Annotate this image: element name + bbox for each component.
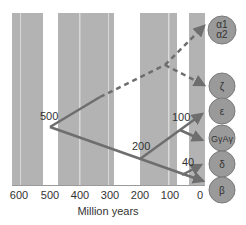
tick-400: 400	[71, 189, 89, 201]
gene-alpha-label-2: α2	[216, 29, 228, 40]
tick-0: 0	[197, 189, 203, 201]
node-label-500: 500	[40, 110, 58, 122]
tick-100: 100	[161, 189, 179, 201]
gene-delta: δ	[209, 151, 235, 177]
white-stripe	[43, 13, 58, 186]
gene-delta-label: δ	[219, 159, 225, 170]
gene-beta: β	[209, 177, 235, 203]
gene-alpha: α1 α2	[208, 16, 236, 44]
gene-zeta-label: ζ	[220, 81, 225, 93]
time-axis: 600 500 400 300 200 100 0 Million years	[10, 189, 203, 217]
tick-200: 200	[131, 189, 149, 201]
phylogeny-diagram: 500 200 100 40 α1 α2 ζ ε GγAγ δ β	[0, 0, 246, 225]
node-label-100: 100	[172, 111, 190, 123]
node-label-40: 40	[182, 156, 194, 168]
tick-300: 300	[101, 189, 119, 201]
axis-title: Million years	[77, 205, 139, 217]
tick-500: 500	[41, 189, 59, 201]
gene-gamma: GγAγ	[209, 125, 235, 151]
gene-beta-label: β	[219, 185, 225, 196]
gene-epsilon: ε	[209, 98, 235, 124]
tick-600: 600	[10, 189, 28, 201]
gene-circles: α1 α2 ζ ε GγAγ δ β	[208, 16, 236, 203]
node-label-200: 200	[132, 140, 150, 152]
gene-gamma-label: GγAγ	[211, 134, 234, 144]
white-stripe	[114, 13, 140, 186]
gene-epsilon-label: ε	[220, 106, 225, 117]
time-stripes	[12, 13, 205, 186]
gene-zeta: ζ	[209, 73, 235, 99]
